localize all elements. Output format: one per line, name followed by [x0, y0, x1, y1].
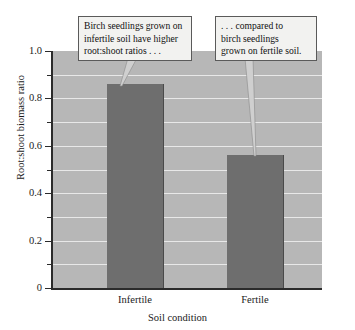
callout-fertile-line-3: grown on fertile soil. [221, 45, 311, 58]
callout-fertile-line-2: birch seedlings [221, 33, 311, 46]
bar-chart-figure: 00.20.40.60.81.0 InfertileFertile Soil c… [0, 0, 355, 330]
callout-fertile: . . . compared to birch seedlings grown … [215, 16, 317, 61]
callout-infertile-line-3: root:shoot ratios . . . [84, 45, 186, 58]
callout-fertile-line-1: . . . compared to [221, 20, 311, 33]
callout-infertile-line-1: Birch seedlings grown on [84, 20, 186, 33]
callout-infertile-line-2: infertile soil have higher [84, 33, 186, 46]
callout-infertile: Birch seedlings grown on infertile soil … [78, 16, 192, 61]
